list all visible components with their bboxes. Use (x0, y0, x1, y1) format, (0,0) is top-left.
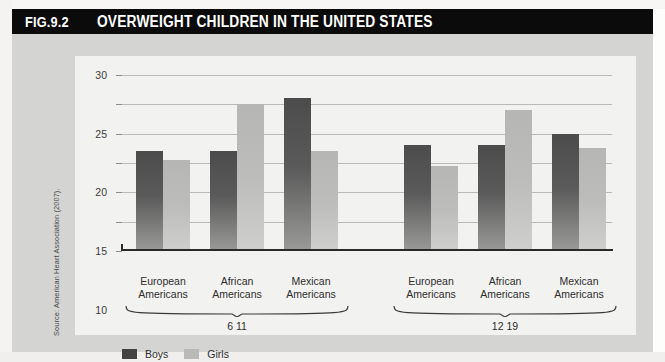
figure-number: FIG.9.2 (25, 14, 69, 30)
y-tick-mark: 0 (116, 251, 122, 252)
legend-label-boys: Boys (145, 348, 168, 360)
category-label: MexicanAmericans (533, 275, 625, 300)
figure-body: Source: American Heart Association (2007… (12, 34, 653, 352)
figure-title: OVERWEIGHT CHILDREN IN THE UNITED STATES (97, 13, 433, 31)
category-label-line: Mexican (265, 275, 357, 288)
gridline (122, 163, 612, 164)
y-tick-label: 30 (95, 69, 107, 81)
bar-girls-african-americans-12-19 (505, 110, 532, 251)
bar-boys-european-americans-6-11 (136, 151, 163, 251)
gridline (122, 192, 612, 193)
legend-swatch-girls (184, 349, 199, 359)
figure-title-bar: FIG.9.2 OVERWEIGHT CHILDREN IN THE UNITE… (12, 9, 653, 34)
page-edge-bottom (0, 352, 665, 362)
gridline (122, 104, 612, 105)
bar-girls-european-americans-12-19 (431, 166, 458, 251)
y-tick-label: 20 (95, 186, 107, 198)
bar-girls-african-americans-6-11 (237, 104, 264, 251)
gridline (122, 251, 612, 252)
legend-label-girls: Girls (207, 348, 229, 360)
plot-card: 051015202530 EuropeanAmericansAfricanAme… (75, 56, 636, 335)
category-label: MexicanAmericans (265, 275, 357, 300)
y-tick-label: 15 (95, 245, 107, 257)
legend-swatch-boys (122, 349, 137, 359)
plot-area: 051015202530 EuropeanAmericansAfricanAme… (122, 75, 612, 251)
y-tick-label: 10 (95, 304, 107, 316)
bar-boys-european-americans-12-19 (404, 145, 431, 251)
group-brace (124, 306, 350, 317)
y-tick-mark: 15 (116, 163, 122, 164)
bar-girls-european-americans-6-11 (163, 160, 190, 251)
gridline (122, 222, 612, 223)
figure-container: FIG.9.2 OVERWEIGHT CHILDREN IN THE UNITE… (0, 0, 665, 362)
bar-boys-african-americans-6-11 (210, 151, 237, 251)
age-group-label: 6 11 (124, 320, 350, 332)
category-label-line: Americans (533, 288, 625, 301)
gridline (122, 134, 612, 135)
y-tick-mark: 30 (116, 75, 122, 76)
gridline (122, 75, 612, 76)
legend-item-girls: Girls (184, 348, 229, 360)
y-tick-mark: 5 (116, 222, 122, 223)
bar-girls-mexican-americans-12-19 (579, 148, 606, 251)
source-note: Source: American Heart Association (2007… (52, 186, 61, 336)
age-group-label: 12 19 (392, 320, 618, 332)
x-axis-line (121, 249, 613, 251)
bar-girls-mexican-americans-6-11 (311, 151, 338, 251)
y-tick-mark: 25 (116, 104, 122, 105)
page-edge-top (0, 0, 665, 9)
legend-item-boys: Boys (122, 348, 168, 360)
category-label-line: Americans (265, 288, 357, 301)
y-tick-mark: 10 (116, 192, 122, 193)
group-brace (392, 306, 618, 317)
page-edge-left (0, 0, 12, 362)
legend: BoysGirls (122, 348, 229, 360)
y-tick-label: 25 (95, 128, 107, 140)
bar-boys-mexican-americans-6-11 (284, 98, 311, 251)
bar-boys-mexican-americans-12-19 (552, 134, 579, 251)
bar-boys-african-americans-12-19 (478, 145, 505, 251)
y-axis-origin-nub (121, 244, 123, 251)
y-tick-mark: 20 (116, 134, 122, 135)
category-label-line: Mexican (533, 275, 625, 288)
